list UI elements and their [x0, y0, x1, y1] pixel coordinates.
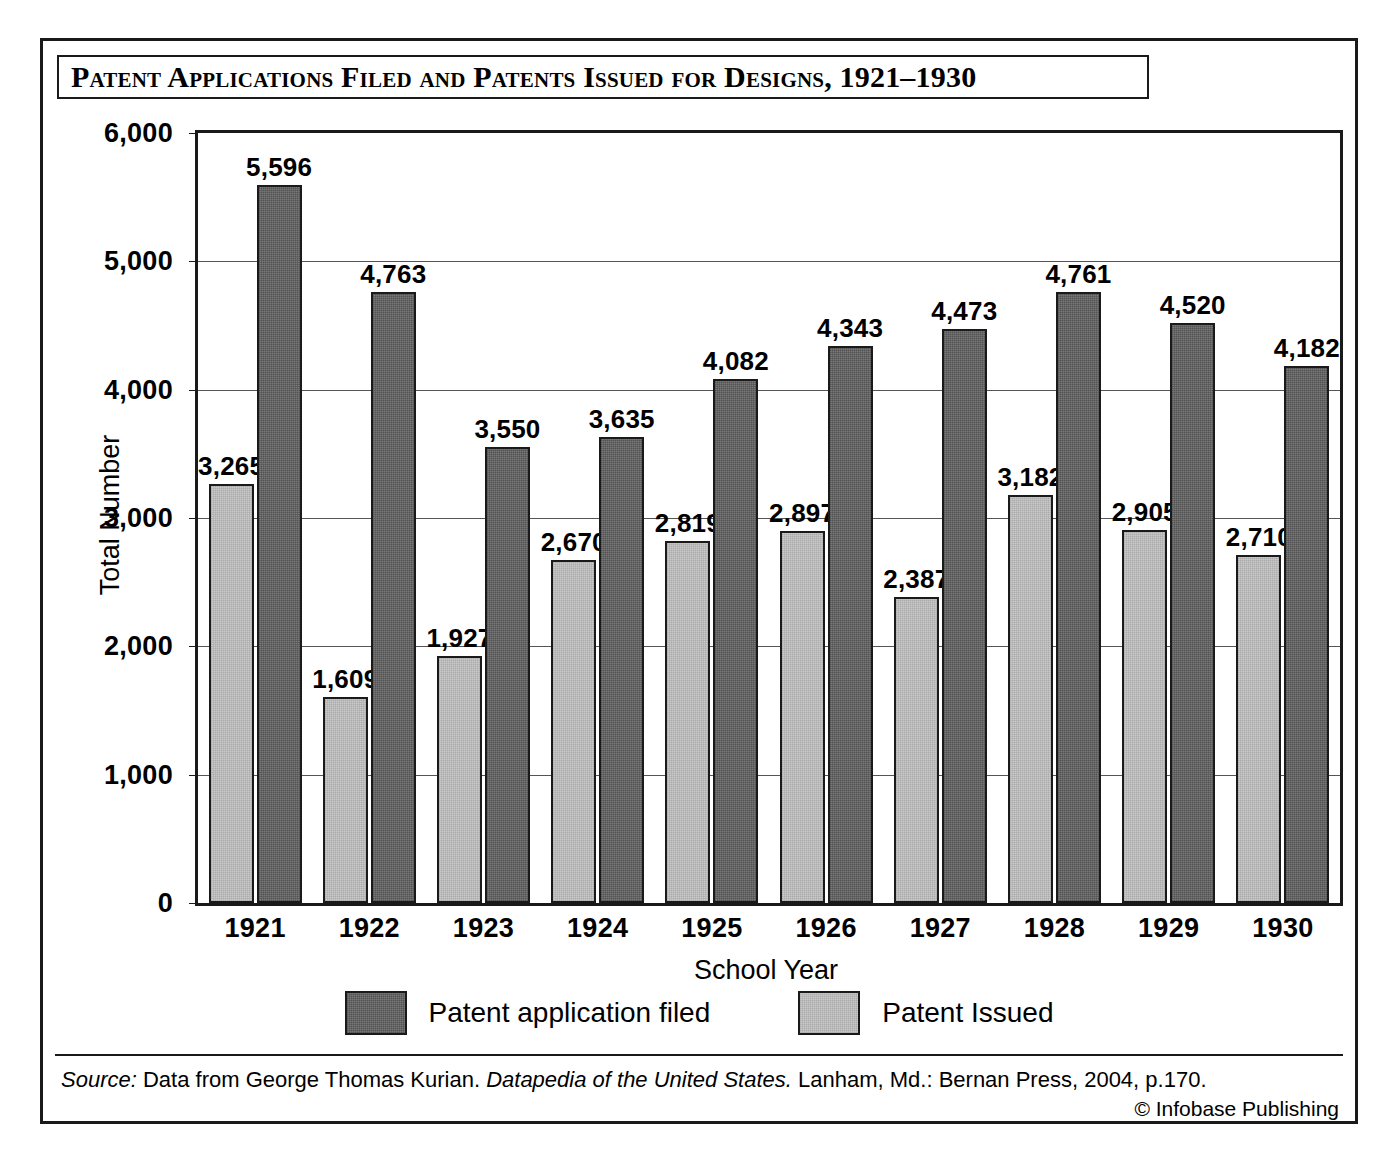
bar-value-label: 1,609 — [312, 664, 378, 695]
bar-group-1928: 3,1824,7611928 — [997, 133, 1111, 903]
x-tick-label-1923: 1923 — [453, 913, 514, 944]
x-tick-label-1928: 1928 — [1024, 913, 1085, 944]
bar-filed-1924[interactable]: 3,635 — [599, 437, 644, 903]
bar-value-label: 3,265 — [198, 451, 264, 482]
bar-filed-1926[interactable]: 4,343 — [828, 346, 873, 903]
chart-figure: Patent Applications Filed and Patents Is… — [40, 38, 1358, 1124]
bar-filed-1927[interactable]: 4,473 — [942, 329, 987, 903]
source-text-part1: Data from George Thomas Kurian. — [137, 1067, 486, 1092]
bar-issued-1928[interactable]: 3,182 — [1008, 495, 1053, 903]
bar-value-label: 3,635 — [589, 404, 655, 435]
x-axis-title: School Year — [195, 955, 1337, 986]
bar-issued-1922[interactable]: 1,609 — [323, 697, 368, 903]
y-tick-label: 4,000 — [104, 374, 173, 405]
y-tick-mark — [189, 390, 198, 391]
bar-group-1922: 1,6094,7631922 — [312, 133, 426, 903]
bar-issued-1923[interactable]: 1,927 — [437, 656, 482, 903]
plot-inner: 01,0002,0003,0004,0005,0006,0003,2655,59… — [198, 133, 1340, 903]
bar-filed-1928[interactable]: 4,761 — [1056, 292, 1101, 903]
x-tick-label-1929: 1929 — [1138, 913, 1199, 944]
source-divider — [55, 1054, 1343, 1056]
bar-value-label: 4,082 — [703, 346, 769, 377]
bar-group-1926: 2,8974,3431926 — [769, 133, 883, 903]
bar-issued-1925[interactable]: 2,819 — [665, 541, 710, 903]
chart-legend: Patent application filedPatent Issued — [43, 991, 1355, 1035]
bar-filed-1921[interactable]: 5,596 — [257, 185, 302, 903]
y-tick-label: 0 — [158, 888, 173, 919]
bar-issued-1927[interactable]: 2,387 — [894, 597, 939, 903]
bar-group-1930: 2,7104,1821930 — [1226, 133, 1340, 903]
source-note: Source: Data from George Thomas Kurian. … — [61, 1067, 1207, 1093]
legend-label-filed: Patent application filed — [429, 997, 711, 1029]
bar-filed-1922[interactable]: 4,763 — [371, 292, 416, 903]
bar-issued-1926[interactable]: 2,897 — [780, 531, 825, 903]
bar-value-label: 4,343 — [817, 313, 883, 344]
bar-value-label: 2,819 — [655, 508, 721, 539]
x-tick-label-1926: 1926 — [795, 913, 856, 944]
legend-item-filed[interactable]: Patent application filed — [345, 991, 711, 1035]
bar-filed-1923[interactable]: 3,550 — [485, 447, 530, 903]
bar-group-1929: 2,9054,5201929 — [1112, 133, 1226, 903]
bar-value-label: 3,182 — [997, 462, 1063, 493]
legend-label-issued: Patent Issued — [882, 997, 1053, 1029]
source-text-part2: Lanham, Md.: Bernan Press, 2004, p.170. — [792, 1067, 1207, 1092]
bar-filed-1929[interactable]: 4,520 — [1170, 323, 1215, 903]
x-tick-label-1927: 1927 — [910, 913, 971, 944]
page-title: Patent Applications Filed and Patents Is… — [71, 62, 976, 92]
bar-issued-1924[interactable]: 2,670 — [551, 560, 596, 903]
y-tick-label: 6,000 — [104, 118, 173, 149]
x-tick-label-1921: 1921 — [224, 913, 285, 944]
y-tick-mark — [189, 646, 198, 647]
bar-value-label: 5,596 — [246, 152, 312, 183]
bar-value-label: 2,897 — [769, 498, 835, 529]
bar-group-1925: 2,8194,0821925 — [655, 133, 769, 903]
y-tick-mark — [189, 775, 198, 776]
copyright-notice: © Infobase Publishing — [1134, 1097, 1339, 1121]
y-tick-label: 5,000 — [104, 246, 173, 277]
legend-swatch-issued — [798, 991, 860, 1035]
bar-value-label: 4,520 — [1160, 290, 1226, 321]
x-tick-label-1922: 1922 — [339, 913, 400, 944]
source-label: Source: — [61, 1067, 137, 1092]
legend-swatch-filed — [345, 991, 407, 1035]
y-tick-mark — [189, 903, 198, 904]
bar-value-label: 2,905 — [1112, 497, 1178, 528]
bar-group-1924: 2,6703,6351924 — [541, 133, 655, 903]
x-tick-label-1930: 1930 — [1252, 913, 1313, 944]
bar-value-label: 2,387 — [883, 564, 949, 595]
source-publication-title: Datapedia of the United States. — [486, 1067, 792, 1092]
bar-value-label: 1,927 — [426, 623, 492, 654]
y-tick-mark — [189, 518, 198, 519]
x-tick-label-1924: 1924 — [567, 913, 628, 944]
bar-value-label: 2,710 — [1226, 522, 1292, 553]
bar-group-1927: 2,3874,4731927 — [883, 133, 997, 903]
y-tick-label: 1,000 — [104, 759, 173, 790]
bar-group-1923: 1,9273,5501923 — [426, 133, 540, 903]
y-tick-mark — [189, 133, 198, 134]
chart-title-box: Patent Applications Filed and Patents Is… — [57, 55, 1149, 99]
x-tick-label-1925: 1925 — [681, 913, 742, 944]
y-tick-label: 3,000 — [104, 503, 173, 534]
bar-value-label: 4,761 — [1045, 259, 1111, 290]
bar-filed-1925[interactable]: 4,082 — [713, 379, 758, 903]
y-tick-mark — [189, 261, 198, 262]
plot-area: 01,0002,0003,0004,0005,0006,0003,2655,59… — [195, 130, 1343, 906]
bar-issued-1929[interactable]: 2,905 — [1122, 530, 1167, 903]
bar-issued-1921[interactable]: 3,265 — [209, 484, 254, 903]
bar-value-label: 3,550 — [474, 414, 540, 445]
bar-value-label: 4,763 — [360, 259, 426, 290]
legend-item-issued[interactable]: Patent Issued — [798, 991, 1053, 1035]
bar-issued-1930[interactable]: 2,710 — [1236, 555, 1281, 903]
bar-filed-1930[interactable]: 4,182 — [1284, 366, 1329, 903]
y-tick-label: 2,000 — [104, 631, 173, 662]
bar-value-label: 4,473 — [931, 296, 997, 327]
bar-value-label: 4,182 — [1274, 333, 1340, 364]
bar-group-1921: 3,2655,5961921 — [198, 133, 312, 903]
bar-value-label: 2,670 — [541, 527, 607, 558]
